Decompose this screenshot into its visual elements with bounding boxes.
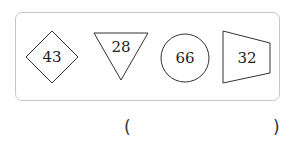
diamond-shape: 43	[26, 31, 78, 83]
triangle-shape: 28	[94, 33, 148, 80]
trapezoid-label: 32	[237, 49, 256, 67]
shapes-figure: 43 28 66 32	[0, 0, 292, 148]
trapezoid-shape: 32	[223, 31, 270, 83]
circle-shape: 66	[161, 34, 209, 82]
answer-open-paren: (	[124, 117, 131, 137]
diamond-label: 43	[42, 48, 61, 66]
triangle-label: 28	[111, 38, 130, 56]
circle-label: 66	[175, 49, 194, 67]
answer-close-paren: )	[273, 117, 280, 137]
